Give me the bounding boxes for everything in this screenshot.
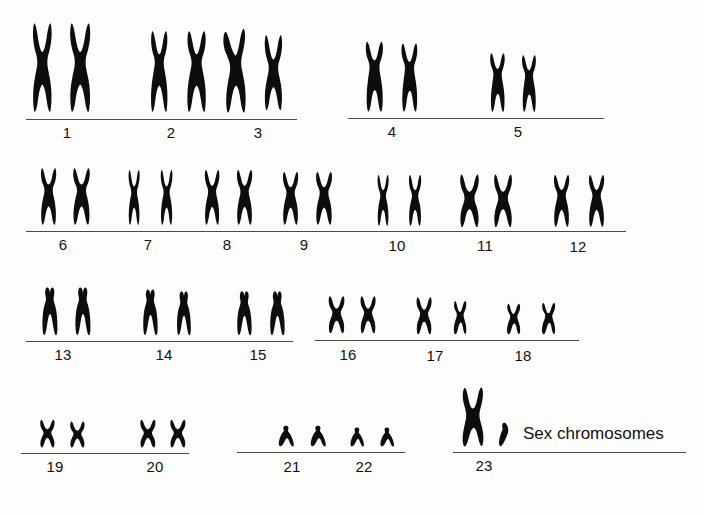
chromosome-silhouette-metacentric-small [361, 296, 376, 333]
chromosome-10-2 [405, 173, 426, 227]
group-number-label-3: 3 [238, 124, 278, 141]
chromosome-19-1 [38, 418, 57, 448]
chromosome-silhouette-submetacentric-large [151, 31, 167, 112]
chromosome-silhouette-metacentric-tiny [40, 420, 54, 448]
chromosome-20-2 [168, 418, 188, 448]
chromosome-silhouette-metacentric-large [33, 23, 52, 111]
chromosome-silhouette-metacentric-small [329, 296, 345, 333]
chromosome-14-1 [139, 288, 162, 336]
chromosome-silhouette-metacentric-large [70, 23, 90, 111]
karyotype-figure: 1234567891011121314151617181920212223 Se… [0, 0, 706, 516]
chromosome-silhouette-metacentric-tiny [140, 420, 155, 448]
chromosome-23-1 [460, 387, 487, 447]
chromosome-17-1 [414, 295, 435, 335]
chromosome-silhouette-acrocentric-large [42, 287, 57, 335]
chromosome-9-2 [313, 170, 337, 226]
chromosome-3-1 [222, 28, 252, 114]
chromosome-silhouette-submetacentric-medium [490, 53, 505, 112]
chromosome-23-2 [496, 422, 512, 447]
group-number-label-5: 5 [498, 123, 538, 140]
chromosome-silhouette-submetacentric-small [507, 304, 520, 334]
chromosome-4-2 [398, 41, 422, 113]
group-number-label-23: 23 [464, 457, 504, 474]
group-number-label-6: 6 [43, 236, 83, 253]
group-number-label-7: 7 [128, 236, 168, 253]
chromosome-16-2 [358, 294, 379, 334]
chromosome-11-1 [458, 173, 483, 228]
group-number-label-4: 4 [372, 123, 412, 140]
chromosome-silhouette-submetacentric-slim [129, 170, 140, 225]
chromosome-21-2 [308, 425, 328, 447]
chromosome-silhouette-metacentric-small [417, 297, 432, 334]
chromosome-silhouette-submetacentric [205, 170, 220, 225]
chromosome-12-2 [586, 173, 609, 228]
group-rule-4-5 [348, 118, 604, 119]
chromosome-silhouette-acrocentric-large [75, 287, 90, 335]
chromosome-19-2 [68, 420, 87, 448]
chromosome-18-1 [503, 302, 524, 335]
chromosome-13-2 [71, 286, 95, 336]
chromosome-12-1 [551, 173, 574, 228]
chromosome-silhouette-metacentric-large-bent [223, 29, 245, 113]
chromosome-15-1 [233, 290, 256, 336]
chromosome-silhouette-submetacentric-medium [522, 55, 536, 112]
chromosome-silhouette-metacentric-large [265, 35, 282, 110]
chromosome-1-1 [30, 22, 58, 114]
chromosome-15-2 [266, 290, 289, 336]
group-number-label-13: 13 [43, 346, 83, 363]
chromosome-silhouette-y-chromosome [499, 423, 508, 446]
chromosome-18-2 [538, 301, 559, 335]
group-number-label-9: 9 [284, 236, 324, 253]
chromosome-silhouette-submetacentric [316, 172, 332, 225]
chromosome-6-2 [70, 166, 95, 226]
group-number-label-12: 12 [558, 238, 598, 255]
chromosome-4-1 [362, 39, 388, 113]
group-number-label-18: 18 [503, 347, 543, 364]
group-number-label-8: 8 [207, 236, 247, 253]
chromosome-8-1 [202, 168, 224, 226]
group-number-label-2: 2 [151, 124, 191, 141]
group-rule-23 [453, 452, 686, 453]
chromosome-silhouette-submetacentric-medium [401, 44, 417, 112]
chromosome-silhouette-submetacentric [237, 170, 252, 225]
chromosome-silhouette-submetacentric [41, 168, 56, 224]
sex-chromosomes-caption: Sex chromosomes [523, 424, 664, 444]
chromosome-5-2 [519, 53, 540, 113]
chromosome-silhouette-acrocentric-tiny [279, 426, 294, 447]
group-number-label-21: 21 [272, 458, 312, 475]
group-number-label-22: 22 [344, 458, 384, 475]
chromosome-10-1 [374, 173, 393, 227]
chromosome-5-1 [487, 51, 509, 113]
chromosome-silhouette-submetacentric-small [454, 301, 466, 334]
chromosome-silhouette-submetacentric-small [542, 303, 555, 334]
chromosome-17-2 [450, 299, 470, 335]
group-rule-19-20 [21, 453, 189, 454]
chromosome-silhouette-acrocentric-large [237, 291, 251, 335]
chromosome-silhouette-acrocentric-tiny [350, 428, 364, 447]
chromosome-7-2 [157, 168, 177, 226]
chromosome-22-1 [348, 427, 366, 447]
chromosome-silhouette-acrocentric-tiny [380, 428, 394, 447]
chromosome-silhouette-submetacentric-slim [378, 175, 389, 226]
group-number-label-14: 14 [144, 346, 184, 363]
chromosome-silhouette-submetacentric-slim [409, 175, 421, 226]
group-rule-16-18 [315, 340, 579, 341]
group-rule-1-3 [26, 119, 297, 120]
group-number-label-17: 17 [415, 347, 455, 364]
chromosome-silhouette-metacentric-tiny [170, 420, 185, 448]
group-number-label-1: 1 [47, 124, 87, 141]
chromosome-silhouette-submetacentric [73, 168, 90, 224]
chromosome-silhouette-submetacentric-medium [366, 42, 383, 112]
group-number-label-11: 11 [465, 237, 505, 254]
chromosome-6-1 [38, 166, 61, 226]
chromosome-silhouette-acrocentric-large [270, 291, 284, 335]
chromosome-silhouette-submetacentric [554, 175, 569, 227]
group-number-label-15: 15 [238, 346, 278, 363]
chromosome-silhouette-x-chromosome [463, 388, 484, 447]
chromosome-silhouette-metacentric [494, 174, 512, 227]
chromosome-silhouette-submetacentric [589, 175, 604, 227]
chromosome-silhouette-submetacentric-large [187, 31, 205, 112]
group-number-label-20: 20 [135, 458, 175, 475]
group-number-label-16: 16 [328, 346, 368, 363]
chromosome-21-1 [276, 425, 296, 447]
